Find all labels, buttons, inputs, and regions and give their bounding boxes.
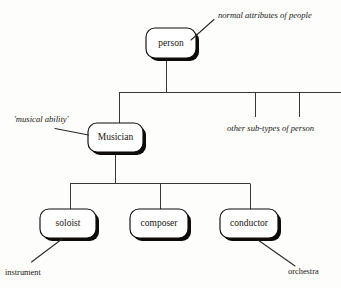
leader-instrument (32, 239, 63, 262)
annotation-other-subtypes: other sub-types of person (227, 123, 314, 133)
node-soloist[interactable]: soloist (40, 209, 99, 241)
diagram-canvas: person Musician soloist composer conduct… (0, 0, 341, 288)
node-composer[interactable]: composer (130, 209, 191, 241)
leader-musical-ability (55, 129, 89, 136)
annotation-instrument: instrument (5, 268, 41, 277)
composer-label: composer (141, 218, 179, 228)
conductor-label: conductor (230, 218, 269, 228)
node-person[interactable]: person (146, 28, 199, 61)
soloist-label: soloist (56, 218, 81, 228)
node-conductor[interactable]: conductor (220, 209, 281, 241)
leader-normal-attributes (191, 20, 214, 41)
musician-label: Musician (98, 132, 134, 142)
leader-orchestra (258, 240, 295, 266)
person-label: person (158, 38, 184, 48)
type-hierarchy-diagram: person Musician soloist composer conduct… (0, 0, 341, 288)
annotation-musical-ability: 'musical ability' (14, 114, 69, 124)
node-musician[interactable]: Musician (88, 123, 146, 155)
annotation-orchestra: orchestra (288, 267, 319, 276)
annotation-normal-attributes: normal attributes of people (218, 10, 312, 20)
